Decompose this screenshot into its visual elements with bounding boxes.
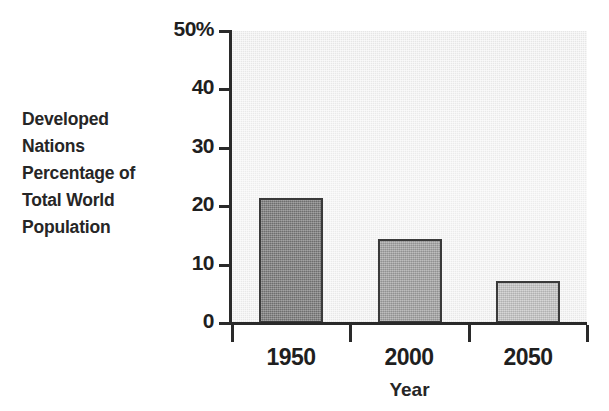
y-axis-tick-40 bbox=[219, 88, 232, 91]
y-axis-tick-label-50: 50% bbox=[154, 17, 214, 41]
y-axis-tick-label-30: 30 bbox=[154, 134, 214, 158]
x-axis-tick-1 bbox=[349, 325, 352, 342]
bar-2000 bbox=[378, 239, 442, 323]
bar-2000-fill bbox=[380, 241, 440, 321]
chart-figure: Developed Nations Percentage of Total Wo… bbox=[0, 0, 609, 411]
x-axis-tick-label-2000: 2000 bbox=[350, 344, 468, 371]
bar-2050 bbox=[496, 281, 560, 323]
y-axis-line bbox=[229, 30, 232, 324]
y-axis-tick-labels: 01020304050% bbox=[148, 0, 214, 411]
x-axis-tick-label-2050: 2050 bbox=[469, 344, 587, 371]
x-axis-tick-2 bbox=[468, 325, 471, 342]
x-axis-line bbox=[229, 322, 587, 325]
bar-2050-fill bbox=[498, 283, 558, 321]
y-axis-tick-10 bbox=[219, 264, 232, 267]
x-axis-title: Year bbox=[232, 379, 587, 401]
y-axis-tick-label-0: 0 bbox=[154, 309, 214, 333]
x-axis-tick-0 bbox=[231, 325, 234, 342]
y-axis-tick-30 bbox=[219, 147, 232, 150]
y-axis-tick-50 bbox=[219, 30, 232, 33]
y-axis-tick-label-10: 10 bbox=[154, 251, 214, 275]
y-axis-tick-label-20: 20 bbox=[154, 192, 214, 216]
x-axis-tick-label-1950: 1950 bbox=[232, 344, 350, 371]
bar-1950 bbox=[259, 198, 323, 323]
x-axis-tick-3 bbox=[586, 325, 589, 342]
plot-area bbox=[232, 31, 587, 323]
bar-1950-fill bbox=[261, 200, 321, 321]
y-axis-tick-label-40: 40 bbox=[154, 75, 214, 99]
y-axis-tick-20 bbox=[219, 205, 232, 208]
